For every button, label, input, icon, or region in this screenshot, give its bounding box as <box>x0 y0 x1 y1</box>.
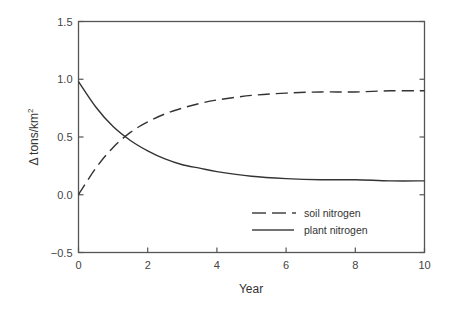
y-tick-label: 1.5 <box>57 16 72 28</box>
series-soil-nitrogen <box>79 91 425 195</box>
series-lines <box>79 82 425 195</box>
x-tick-label: 10 <box>418 259 430 271</box>
y-tick-label: 0.5 <box>57 131 72 143</box>
legend: soil nitrogen plant nitrogen <box>252 207 368 236</box>
x-axis-ticks: 0246810 <box>75 248 430 271</box>
x-tick-label: 8 <box>352 259 358 271</box>
x-axis-title: Year <box>239 282 263 296</box>
series-plant-nitrogen <box>79 82 425 181</box>
y-tick-label: 0.0 <box>57 189 72 201</box>
legend-label-soil-nitrogen: soil nitrogen <box>304 207 361 219</box>
x-tick-label: 6 <box>283 259 289 271</box>
y-axis-ticks: 1.51.00.50.0−0.5 <box>51 16 425 259</box>
y-tick-label: −0.5 <box>51 247 73 259</box>
legend-label-plant-nitrogen: plant nitrogen <box>304 224 368 236</box>
x-tick-label: 2 <box>145 259 151 271</box>
line-chart: 1.51.00.50.0−0.5 0246810 Year Δ tons/km2… <box>0 0 453 323</box>
y-axis-title-main: Δ tons/km <box>27 113 41 166</box>
y-axis-title: Δ tons/km2 <box>26 108 41 166</box>
plot-frame <box>79 22 425 253</box>
y-tick-label: 1.0 <box>57 73 72 85</box>
x-tick-label: 4 <box>214 259 220 271</box>
y-axis-title-superscript: 2 <box>26 108 35 113</box>
x-tick-label: 0 <box>75 259 81 271</box>
